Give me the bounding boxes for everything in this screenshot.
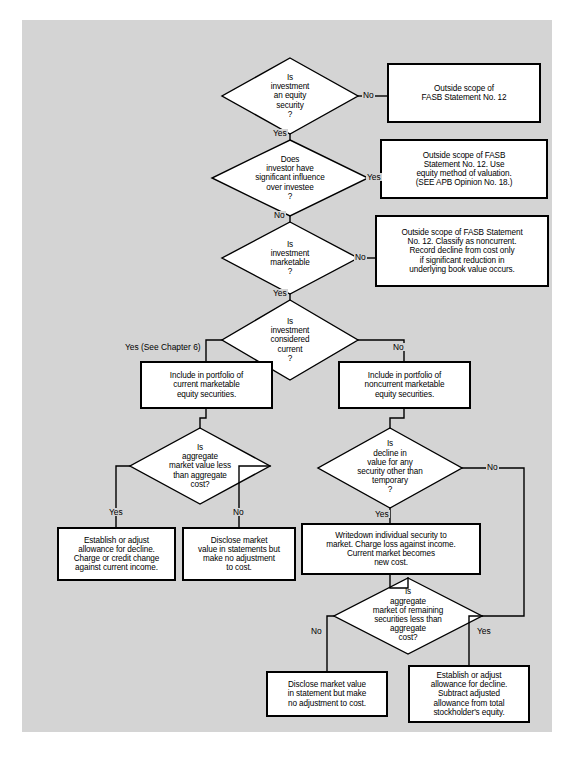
edge-d5-yes: [116, 466, 130, 528]
edge-label-d1-no: No: [362, 91, 375, 99]
process-b5: Include in portfolio of noncurrent marke…: [339, 362, 470, 408]
decision-d7: Is aggregate market of remaining securit…: [340, 580, 476, 650]
process-b3: Outside scope of FASB Statement No. 12. …: [376, 216, 548, 286]
flowchart-page: Is investment an equity security ? Does …: [0, 0, 574, 757]
edge-label-d3-yes: Yes: [272, 289, 288, 297]
edge-label-d4-yes: Yes (See Chapter 6): [124, 343, 202, 351]
edge-d4-yes: [206, 340, 222, 362]
decision-d5: Is aggregate market value less than aggr…: [139, 432, 261, 500]
process-b7: Disclose market value in statements but …: [183, 528, 295, 580]
process-b9: Disclose market value in statement but m…: [267, 672, 387, 716]
edge-label-d1-yes: Yes: [272, 129, 288, 137]
process-b10: Establish or adjust allowance for declin…: [409, 666, 529, 722]
edge-label-d2-yes: Yes: [366, 173, 382, 181]
process-b8: Writedown individual security to market.…: [302, 524, 480, 574]
edge-label-d7-yes: Yes: [476, 627, 492, 635]
decision-d3: Is investment marketable ?: [236, 228, 344, 288]
edge-label-d5-yes: Yes: [108, 508, 124, 516]
edge-d7-no: [327, 616, 334, 672]
process-b1: Outside scope of FASB Statement No. 12: [388, 64, 540, 122]
edge-b4-d5: [200, 408, 206, 428]
edge-label-d4-no: No: [392, 343, 405, 351]
decision-d1: Is investment an equity security ?: [234, 62, 346, 130]
edge-label-d6-yes: Yes: [374, 510, 390, 518]
edge-label-d7-no: No: [310, 627, 323, 635]
process-b6: Establish or adjust allowance for declin…: [58, 528, 175, 580]
edge-label-d6-no: No: [486, 463, 499, 471]
decision-d2: Does investor have significant influence…: [218, 144, 362, 212]
edge-label-d5-no: No: [232, 508, 245, 516]
edge-label-d3-no: No: [354, 253, 367, 261]
process-b4: Include in portfolio of current marketab…: [141, 362, 272, 408]
edge-label-d2-no: No: [273, 211, 286, 219]
decision-d6: Is decline in value for any security oth…: [324, 430, 456, 504]
edge-b5-d6: [390, 408, 404, 428]
process-b2: Outside scope of FASB Statement No. 12. …: [381, 140, 547, 198]
